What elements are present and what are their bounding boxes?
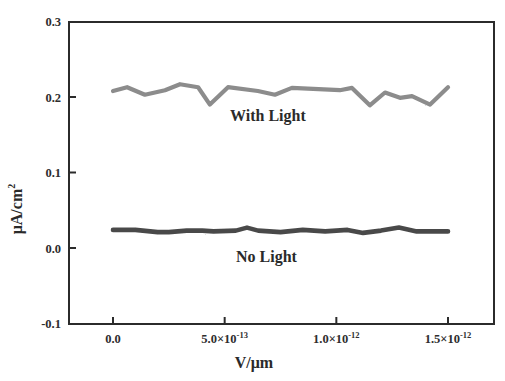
svg-text:μA/cm2: μA/cm2	[6, 184, 26, 235]
no-light-line	[113, 228, 448, 233]
y-axis-title-superscript: 2	[6, 184, 17, 189]
x-tick-label: 1.0×10-12	[313, 330, 360, 346]
y-tick-label: 0.3	[45, 15, 61, 29]
plot-frame	[69, 22, 494, 324]
y-tick-label: 0.0	[45, 242, 61, 256]
y-tick-label: 0.1	[45, 166, 61, 180]
x-tick-label: 5.0×10-13	[201, 330, 248, 346]
y-tick-label: -0.1	[41, 317, 61, 331]
no-light-annotation: No Light	[236, 248, 298, 266]
chart: 0.30.20.10.0-0.1 0.05.0×10-131.0×10-121.…	[0, 0, 505, 381]
y-tick-label: 0.2	[45, 91, 61, 105]
x-tick-label: 1.5×10-12	[425, 330, 472, 346]
y-axis-title: μA/cm2	[6, 184, 26, 235]
with-light-annotation: With Light	[230, 107, 306, 125]
y-axis-ticks: 0.30.20.10.0-0.1	[41, 15, 76, 331]
x-axis-ticks: 0.05.0×10-131.0×10-121.5×10-12	[105, 317, 471, 346]
y-axis-title-main: μA/cm	[8, 188, 26, 234]
with-light-line	[113, 84, 448, 105]
x-tick-label: 0.0	[105, 332, 121, 346]
x-axis-title: V/μm	[235, 354, 274, 372]
